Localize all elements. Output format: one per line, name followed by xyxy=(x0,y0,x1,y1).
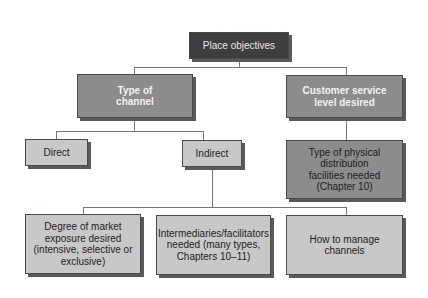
node-physical-distribution-facilities: Type of physical distribution facilities… xyxy=(286,140,403,199)
connector-channel-horizontal xyxy=(56,131,204,132)
connector-to-indirect xyxy=(203,131,204,140)
connector-indirect-down xyxy=(212,167,213,207)
node-place-objectives: Place objectives xyxy=(189,32,289,59)
connector-to-market-exposure xyxy=(83,207,84,214)
node-label: Degree of market exposure desired (inten… xyxy=(34,221,133,267)
connector-level1-horizontal xyxy=(134,67,347,68)
node-customer-service-level: Customer service level desired xyxy=(286,75,403,118)
connector-root-down xyxy=(239,59,240,67)
node-label: Type of physical distribution facilities… xyxy=(309,147,381,193)
node-label: How to manage channels xyxy=(309,234,379,257)
node-type-of-channel: Type of channel xyxy=(77,74,193,118)
node-label: Direct xyxy=(43,147,69,159)
connector-to-how-to-manage xyxy=(346,207,347,215)
node-intermediaries-facilitators: Intermediaries/facilitators needed (many… xyxy=(156,215,271,275)
connector-channel-down xyxy=(134,118,135,131)
node-direct: Direct xyxy=(25,139,88,166)
connector-to-customer-service xyxy=(346,67,347,75)
node-label: Indirect xyxy=(196,148,229,160)
node-label: Intermediaries/facilitators needed (many… xyxy=(158,228,269,263)
node-market-exposure: Degree of market exposure desired (inten… xyxy=(25,214,141,274)
node-how-to-manage-channels: How to manage channels xyxy=(286,215,403,275)
connector-service-down xyxy=(346,118,347,140)
node-indirect: Indirect xyxy=(182,140,242,167)
node-label: Type of channel xyxy=(116,85,154,108)
node-label: Customer service level desired xyxy=(303,85,387,108)
node-label: Place objectives xyxy=(203,40,275,52)
connector-to-direct xyxy=(56,131,57,139)
connector-level3-horizontal xyxy=(83,207,346,208)
